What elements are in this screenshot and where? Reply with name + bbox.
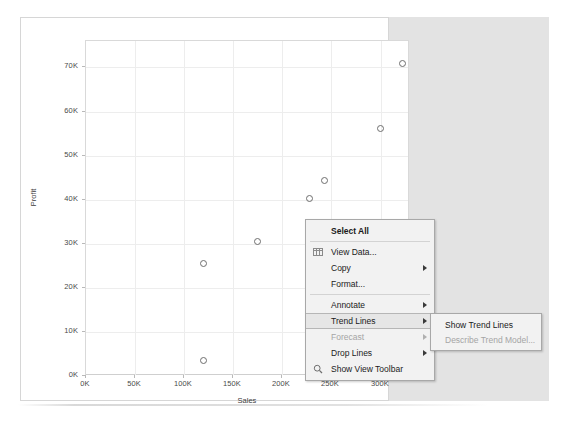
menu-item-label: Annotate — [331, 300, 365, 310]
x-tick-label: 250K — [310, 380, 350, 388]
data-point[interactable] — [200, 357, 207, 364]
y-tick-label: 50K — [38, 151, 78, 159]
submenu-arrow-icon — [423, 302, 427, 308]
gridline-horizontal — [86, 67, 408, 68]
x-tick-mark — [85, 375, 86, 378]
x-tick-label: 50K — [114, 380, 154, 388]
y-tick-label: 30K — [38, 239, 78, 247]
y-tick-label: 40K — [38, 195, 78, 203]
y-tick-label: 0K — [38, 371, 78, 379]
y-tick-label: 60K — [38, 107, 78, 115]
menu-item-label: Forecast — [331, 332, 364, 342]
submenu-arrow-icon — [423, 318, 427, 324]
data-point[interactable] — [321, 177, 328, 184]
submenu-arrow-icon — [423, 334, 427, 340]
y-tick-label: 70K — [38, 62, 78, 70]
submenu-arrow-icon — [423, 350, 427, 356]
magnifier-icon — [313, 364, 323, 374]
x-tick-label: 0K — [65, 380, 105, 388]
submenu-arrow-icon — [423, 265, 427, 271]
gridline-vertical — [135, 41, 136, 375]
menu-item-annotate[interactable]: Annotate — [306, 297, 434, 313]
menu-item-label: Trend Lines — [331, 316, 376, 326]
menu-item-copy[interactable]: Copy — [306, 260, 434, 276]
x-tick-label: 100K — [163, 380, 203, 388]
menu-item-label: Copy — [331, 263, 351, 273]
menu-item-select-all[interactable]: Select All — [306, 223, 434, 239]
page-edge-artifact — [18, 404, 488, 406]
grid-icon — [313, 247, 323, 257]
gridline-vertical — [184, 41, 185, 375]
gridline-vertical — [282, 41, 283, 375]
gridline-horizontal — [86, 112, 408, 113]
gridline-horizontal — [86, 200, 408, 201]
submenu-item-describe-trend-model: Describe Trend Model... — [431, 332, 541, 347]
menu-item-label: Select All — [331, 226, 369, 236]
x-tick-mark — [134, 375, 135, 378]
x-tick-mark — [281, 375, 282, 378]
gridline-vertical — [233, 41, 234, 375]
menu-item-view-data[interactable]: View Data... — [306, 244, 434, 260]
menu-item-label: Show View Toolbar — [331, 364, 403, 374]
submenu-item-show-trend-lines[interactable]: Show Trend Lines — [431, 317, 541, 332]
trend-lines-submenu[interactable]: Show Trend LinesDescribe Trend Model... — [430, 313, 542, 351]
menu-item-label: Drop Lines — [331, 348, 372, 358]
context-menu[interactable]: Select AllView Data...CopyFormat...Annot… — [305, 219, 435, 381]
submenu-item-label: Describe Trend Model... — [445, 335, 535, 345]
menu-item-label: Format... — [331, 279, 365, 289]
menu-separator — [310, 294, 430, 295]
submenu-item-label: Show Trend Lines — [445, 320, 513, 330]
y-tick-label: 10K — [38, 327, 78, 335]
menu-separator — [310, 241, 430, 242]
data-point[interactable] — [306, 195, 313, 202]
x-tick-label: 300K — [360, 380, 400, 388]
menu-item-drop-lines[interactable]: Drop Lines — [306, 345, 434, 361]
y-axis-title: Profit — [29, 178, 38, 218]
data-point[interactable] — [200, 260, 207, 267]
menu-item-label: View Data... — [331, 247, 377, 257]
gridline-horizontal — [86, 156, 408, 157]
x-tick-label: 200K — [261, 380, 301, 388]
x-tick-mark — [232, 375, 233, 378]
y-tick-label: 20K — [38, 283, 78, 291]
x-tick-label: 150K — [212, 380, 252, 388]
menu-item-forecast: Forecast — [306, 329, 434, 345]
data-point[interactable] — [377, 125, 384, 132]
menu-item-trend-lines[interactable]: Trend Lines — [306, 313, 434, 329]
menu-item-format[interactable]: Format... — [306, 276, 434, 292]
x-tick-mark — [183, 375, 184, 378]
menu-item-show-view-toolbar[interactable]: Show View Toolbar — [306, 361, 434, 377]
